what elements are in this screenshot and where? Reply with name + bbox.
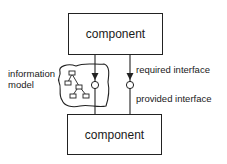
component-box-top: component	[68, 13, 163, 55]
arrowhead-icon	[127, 73, 134, 80]
arrowhead-icon	[92, 73, 99, 80]
provided-interface-circle	[91, 81, 98, 88]
tree-icon	[65, 71, 89, 98]
right-interface-connector	[126, 55, 133, 114]
component-box-bottom: component	[67, 114, 162, 155]
component-label: component	[86, 27, 145, 41]
component-label: component	[85, 128, 144, 142]
information-model-label: information model	[8, 68, 55, 90]
required-interface-label: required interface	[136, 64, 210, 75]
provided-interface-circle	[126, 81, 133, 88]
provided-interface-label: provided interface	[136, 93, 212, 104]
